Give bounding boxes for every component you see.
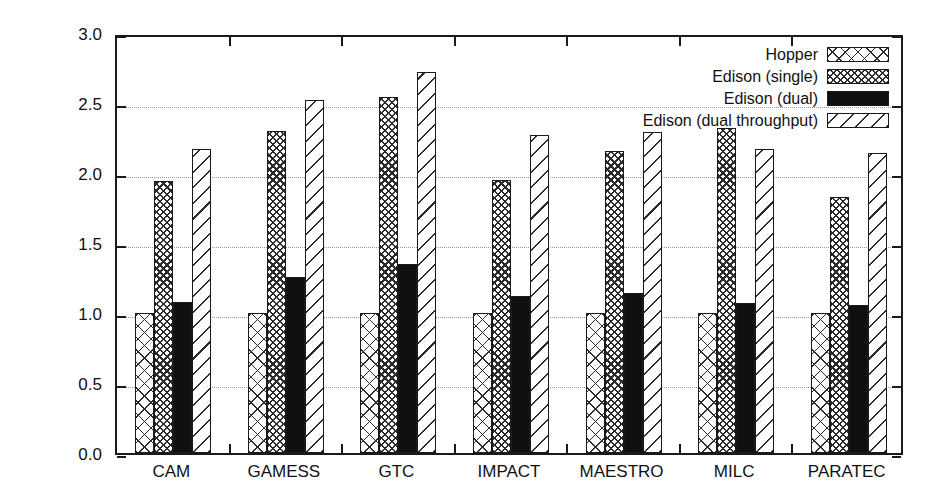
bar bbox=[605, 151, 624, 453]
y-axis-tick-label: 1.0 bbox=[40, 305, 102, 325]
y-axis-tick bbox=[892, 36, 901, 38]
bar bbox=[624, 293, 643, 453]
x-axis-tick bbox=[454, 444, 456, 453]
x-axis-tick bbox=[566, 37, 568, 46]
x-axis-tick bbox=[229, 444, 231, 453]
x-axis-tick bbox=[454, 37, 456, 46]
bar bbox=[511, 296, 530, 453]
bar bbox=[398, 264, 417, 453]
x-axis-tick bbox=[341, 37, 343, 46]
x-axis-tick-label: IMPACT bbox=[478, 462, 541, 482]
y-axis-tick bbox=[892, 176, 901, 178]
bar bbox=[492, 180, 511, 453]
y-axis-tick-label: 0.0 bbox=[40, 445, 102, 465]
y-axis-tick bbox=[892, 386, 901, 388]
y-axis-tick bbox=[892, 456, 901, 458]
bar bbox=[755, 149, 774, 453]
legend-swatch bbox=[827, 47, 889, 62]
bar bbox=[379, 97, 398, 453]
y-axis-tick bbox=[117, 36, 126, 38]
y-axis-tick bbox=[117, 386, 126, 388]
y-axis-tick-label: 2.5 bbox=[40, 95, 102, 115]
bar bbox=[530, 135, 549, 453]
bar bbox=[473, 313, 492, 453]
y-axis-tick bbox=[117, 176, 126, 178]
x-axis-tick-label: MAESTRO bbox=[580, 462, 664, 482]
bar bbox=[698, 313, 717, 453]
legend-swatch bbox=[827, 69, 889, 84]
legend-swatch bbox=[827, 91, 889, 106]
legend-label: Hopper bbox=[766, 46, 818, 64]
legend-label: Edison (dual) bbox=[724, 90, 818, 108]
y-axis-tick bbox=[117, 106, 126, 108]
bar bbox=[248, 313, 267, 453]
bar bbox=[305, 100, 324, 453]
bar bbox=[135, 313, 154, 453]
y-axis-tick bbox=[117, 456, 126, 458]
bar bbox=[717, 128, 736, 453]
bar bbox=[811, 313, 830, 453]
bar bbox=[173, 302, 192, 453]
x-axis-tick-label: MILC bbox=[714, 462, 755, 482]
bar bbox=[267, 131, 286, 453]
bar bbox=[868, 153, 887, 453]
x-axis-tick-label: GTC bbox=[378, 462, 414, 482]
bar bbox=[643, 132, 662, 453]
y-axis-tick bbox=[892, 246, 901, 248]
legend: HopperEdison (single)Edison (dual)Edison… bbox=[643, 45, 889, 130]
legend-label: Edison (single) bbox=[712, 68, 818, 86]
bar-chart-figure: Performance vs. Hopper 0.00.51.01.52.02.… bbox=[0, 0, 950, 499]
x-axis-tick bbox=[341, 444, 343, 453]
y-axis-tick-label: 1.5 bbox=[40, 235, 102, 255]
legend-label: Edison (dual throughput) bbox=[643, 112, 818, 130]
x-axis-tick bbox=[566, 444, 568, 453]
y-axis-tick bbox=[892, 316, 901, 318]
x-axis-tick bbox=[679, 444, 681, 453]
y-axis-tick-label: 2.0 bbox=[40, 165, 102, 185]
bar bbox=[586, 313, 605, 453]
bar bbox=[417, 72, 436, 453]
bar bbox=[736, 303, 755, 453]
bar bbox=[849, 305, 868, 453]
y-axis-tick bbox=[117, 316, 126, 318]
legend-item: Edison (dual throughput) bbox=[643, 111, 889, 130]
gridline bbox=[117, 177, 901, 178]
bar bbox=[192, 149, 211, 453]
legend-item: Edison (single) bbox=[643, 67, 889, 86]
plot-area: HopperEdison (single)Edison (dual)Edison… bbox=[115, 35, 903, 455]
y-axis-tick-label: 3.0 bbox=[40, 25, 102, 45]
x-axis-tick-label: CAM bbox=[152, 462, 190, 482]
x-axis-tick-label: PARATEC bbox=[808, 462, 886, 482]
x-axis-tick-label: GAMESS bbox=[247, 462, 320, 482]
bar bbox=[360, 313, 379, 453]
bar bbox=[286, 277, 305, 453]
legend-swatch bbox=[827, 113, 889, 128]
legend-item: Hopper bbox=[643, 45, 889, 64]
y-axis-tick bbox=[892, 106, 901, 108]
x-axis-tick bbox=[791, 444, 793, 453]
bar bbox=[830, 197, 849, 453]
y-axis-tick-label: 0.5 bbox=[40, 375, 102, 395]
bar bbox=[154, 181, 173, 453]
legend-item: Edison (dual) bbox=[643, 89, 889, 108]
x-axis-tick bbox=[229, 37, 231, 46]
y-axis-tick bbox=[117, 246, 126, 248]
